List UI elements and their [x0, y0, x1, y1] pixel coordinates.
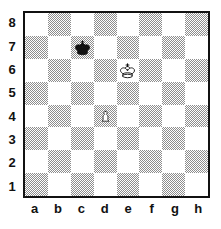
- rank-label-column: 87654321: [4, 11, 20, 198]
- chess-board[interactable]: [25, 13, 208, 196]
- square-f8[interactable]: [139, 13, 162, 36]
- square-c1[interactable]: [71, 173, 94, 196]
- square-f7[interactable]: [139, 36, 162, 59]
- square-g4[interactable]: [162, 105, 185, 128]
- square-f5[interactable]: [139, 82, 162, 105]
- rank-label-8: 8: [4, 11, 20, 34]
- square-d3[interactable]: [94, 127, 117, 150]
- square-b8[interactable]: [48, 13, 71, 36]
- square-c8[interactable]: [71, 13, 94, 36]
- square-g3[interactable]: [162, 127, 185, 150]
- square-f6[interactable]: [139, 59, 162, 82]
- square-h2[interactable]: [185, 150, 208, 173]
- square-h3[interactable]: [185, 127, 208, 150]
- square-c4[interactable]: [71, 105, 94, 128]
- square-a4[interactable]: [25, 105, 48, 128]
- chess-board-frame: [23, 11, 210, 198]
- square-g7[interactable]: [162, 36, 185, 59]
- square-d8[interactable]: [94, 13, 117, 36]
- square-e6[interactable]: [117, 59, 140, 82]
- square-b6[interactable]: [48, 59, 71, 82]
- rank-label-1: 1: [4, 175, 20, 198]
- square-c7[interactable]: [71, 36, 94, 59]
- square-a1[interactable]: [25, 173, 48, 196]
- file-label-a: a: [23, 199, 46, 217]
- square-e1[interactable]: [117, 173, 140, 196]
- file-label-g: g: [163, 199, 186, 217]
- square-d5[interactable]: [94, 82, 117, 105]
- square-c5[interactable]: [71, 82, 94, 105]
- file-label-row: abcdefgh: [23, 199, 210, 217]
- square-h8[interactable]: [185, 13, 208, 36]
- square-g6[interactable]: [162, 59, 185, 82]
- square-a2[interactable]: [25, 150, 48, 173]
- square-f2[interactable]: [139, 150, 162, 173]
- square-b5[interactable]: [48, 82, 71, 105]
- square-e2[interactable]: [117, 150, 140, 173]
- square-f3[interactable]: [139, 127, 162, 150]
- square-b2[interactable]: [48, 150, 71, 173]
- square-d7[interactable]: [94, 36, 117, 59]
- square-d4[interactable]: [94, 105, 117, 128]
- square-b4[interactable]: [48, 105, 71, 128]
- square-f1[interactable]: [139, 173, 162, 196]
- square-h5[interactable]: [185, 82, 208, 105]
- square-h4[interactable]: [185, 105, 208, 128]
- file-label-h: h: [187, 199, 210, 217]
- black-king-icon[interactable]: [71, 36, 94, 59]
- square-a3[interactable]: [25, 127, 48, 150]
- square-f4[interactable]: [139, 105, 162, 128]
- rank-label-6: 6: [4, 58, 20, 81]
- file-label-f: f: [140, 199, 163, 217]
- square-e7[interactable]: [117, 36, 140, 59]
- file-label-e: e: [117, 199, 140, 217]
- square-b7[interactable]: [48, 36, 71, 59]
- square-h6[interactable]: [185, 59, 208, 82]
- square-g1[interactable]: [162, 173, 185, 196]
- rank-label-3: 3: [4, 128, 20, 151]
- chess-diagram: 87654321 abcdefgh: [0, 0, 221, 229]
- square-d2[interactable]: [94, 150, 117, 173]
- square-e5[interactable]: [117, 82, 140, 105]
- square-c6[interactable]: [71, 59, 94, 82]
- square-h1[interactable]: [185, 173, 208, 196]
- white-king-icon[interactable]: [117, 59, 140, 82]
- file-label-b: b: [46, 199, 69, 217]
- square-g5[interactable]: [162, 82, 185, 105]
- square-e3[interactable]: [117, 127, 140, 150]
- white-pawn-icon[interactable]: [94, 105, 117, 128]
- square-a8[interactable]: [25, 13, 48, 36]
- square-b1[interactable]: [48, 173, 71, 196]
- square-a5[interactable]: [25, 82, 48, 105]
- square-d6[interactable]: [94, 59, 117, 82]
- square-c2[interactable]: [71, 150, 94, 173]
- square-b3[interactable]: [48, 127, 71, 150]
- square-a7[interactable]: [25, 36, 48, 59]
- square-c3[interactable]: [71, 127, 94, 150]
- square-h7[interactable]: [185, 36, 208, 59]
- square-d1[interactable]: [94, 173, 117, 196]
- rank-label-2: 2: [4, 151, 20, 174]
- square-e8[interactable]: [117, 13, 140, 36]
- file-label-d: d: [93, 199, 116, 217]
- square-a6[interactable]: [25, 59, 48, 82]
- rank-label-7: 7: [4, 34, 20, 57]
- rank-label-4: 4: [4, 105, 20, 128]
- square-g2[interactable]: [162, 150, 185, 173]
- rank-label-5: 5: [4, 81, 20, 104]
- square-e4[interactable]: [117, 105, 140, 128]
- file-label-c: c: [70, 199, 93, 217]
- square-g8[interactable]: [162, 13, 185, 36]
